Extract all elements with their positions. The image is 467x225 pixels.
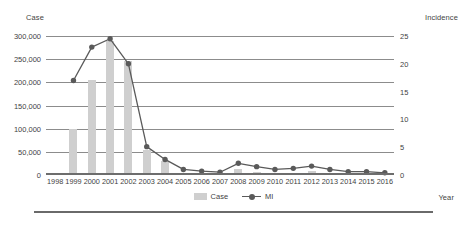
left-axis-title: Case bbox=[26, 13, 44, 22]
x-axis-line bbox=[46, 173, 394, 175]
mi-data-point bbox=[254, 164, 259, 169]
x-tick-label: 2016 bbox=[377, 177, 393, 186]
x-tick-label: 2013 bbox=[322, 177, 338, 186]
x-tick-label: 2006 bbox=[194, 177, 210, 186]
mi-data-point bbox=[272, 167, 277, 172]
mi-data-point bbox=[181, 167, 186, 172]
left-tick-label: 200,000 bbox=[14, 78, 46, 87]
left-tick-label: 100,000 bbox=[14, 124, 46, 133]
mi-data-point bbox=[126, 61, 131, 66]
mi-data-point bbox=[291, 166, 296, 171]
right-tick-label: 10 bbox=[394, 115, 408, 124]
x-tick-label: 2014 bbox=[340, 177, 356, 186]
mi-data-point bbox=[309, 163, 314, 168]
chart-figure: Case Incidence Year 050,000100,000150,00… bbox=[0, 0, 467, 225]
x-tick-label: 2008 bbox=[230, 177, 246, 186]
x-tick-label: 2012 bbox=[303, 177, 319, 186]
mi-data-point bbox=[71, 78, 76, 83]
x-tick-label: 2004 bbox=[157, 177, 173, 186]
right-tick-label: 5 bbox=[394, 143, 404, 152]
left-tick-label: 50,000 bbox=[18, 147, 46, 156]
x-tick-label: 2015 bbox=[358, 177, 374, 186]
x-tick-label: 2001 bbox=[102, 177, 118, 186]
bottom-divider bbox=[34, 211, 433, 213]
plot-area: 050,000100,000150,000200,000250,000300,0… bbox=[46, 36, 394, 175]
left-tick-label: 150,000 bbox=[14, 101, 46, 110]
x-tick-label: 2003 bbox=[139, 177, 155, 186]
x-tick-label: 2000 bbox=[84, 177, 100, 186]
bar-swatch-icon bbox=[194, 193, 207, 200]
right-tick-label: 0 bbox=[394, 171, 404, 180]
line-series-mi bbox=[46, 36, 394, 175]
left-tick-label: 300,000 bbox=[14, 32, 46, 41]
x-tick-label: 1999 bbox=[65, 177, 81, 186]
mi-data-point bbox=[144, 144, 149, 149]
right-tick-label: 20 bbox=[394, 59, 408, 68]
line-circle-icon bbox=[242, 193, 261, 200]
left-tick-label: 250,000 bbox=[14, 55, 46, 64]
x-tick-label: 2002 bbox=[120, 177, 136, 186]
chart-legend: Case MI bbox=[0, 192, 467, 201]
mi-data-point bbox=[327, 167, 332, 172]
legend-label-mi: MI bbox=[265, 192, 273, 201]
left-tick-label: 0 bbox=[37, 171, 46, 180]
mi-line-path bbox=[73, 39, 384, 173]
x-tick-label: 1998 bbox=[47, 177, 63, 186]
mi-data-point bbox=[162, 157, 167, 162]
right-tick-label: 25 bbox=[394, 32, 408, 41]
legend-item-case: Case bbox=[194, 192, 229, 201]
mi-data-point bbox=[107, 36, 112, 41]
x-tick-label: 2009 bbox=[249, 177, 265, 186]
x-tick-label: 2010 bbox=[267, 177, 283, 186]
legend-label-case: Case bbox=[211, 192, 229, 201]
x-tick-label: 2005 bbox=[175, 177, 191, 186]
right-tick-label: 15 bbox=[394, 87, 408, 96]
mi-data-point bbox=[236, 161, 241, 166]
mi-data-point bbox=[89, 44, 94, 49]
legend-item-mi: MI bbox=[242, 192, 273, 201]
x-tick-label: 2011 bbox=[285, 177, 301, 186]
x-tick-label: 2007 bbox=[212, 177, 228, 186]
right-axis-title: Incidence bbox=[425, 13, 458, 22]
